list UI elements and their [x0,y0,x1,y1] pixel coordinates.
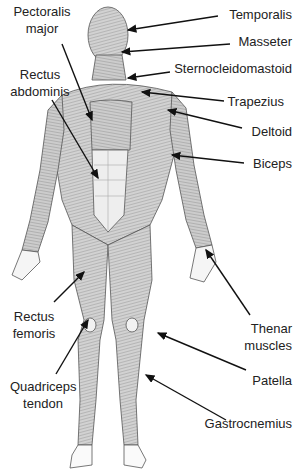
label-thenar-muscles: Thenar muscles [244,320,292,354]
label-quadriceps-tendon: Quadriceps tendon [10,378,76,412]
label-rectus-abdominis: Rectus abdominis [4,66,76,100]
label-line: major [10,20,74,37]
label-line: tendon [10,395,76,412]
label-line: Quadriceps [10,378,76,395]
label-biceps: Biceps [253,155,292,172]
label-sternocleidomastoid: Sternocleidomastoid [174,60,292,77]
label-temporalis: Temporalis [229,6,292,23]
label-rectus-femoris: Rectus femoris [10,308,58,342]
label-line: Rectus [4,66,76,83]
label-patella: Patella [252,372,292,389]
label-gastrocnemius: Gastrocnemius [205,415,292,432]
label-line: Thenar [244,320,292,337]
label-masseter: Masseter [239,33,292,50]
label-line: Rectus [10,308,58,325]
label-line: Pectoralis [10,3,74,20]
label-line: femoris [10,325,58,342]
label-line: abdominis [4,83,76,100]
label-trapezius: Trapezius [227,93,284,110]
label-pectoralis-major: Pectoralis major [10,3,74,37]
label-deltoid: Deltoid [252,123,292,140]
label-line: muscles [244,337,292,354]
